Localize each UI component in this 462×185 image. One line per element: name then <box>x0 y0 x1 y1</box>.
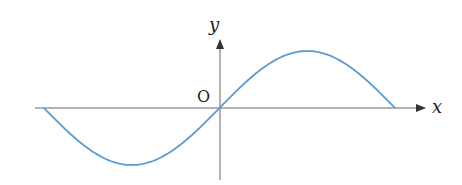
y-axis-label: y <box>208 14 220 35</box>
x-axis-label: x <box>432 96 442 117</box>
sine-graph: y x O <box>0 0 462 185</box>
origin-label: O <box>197 87 210 106</box>
